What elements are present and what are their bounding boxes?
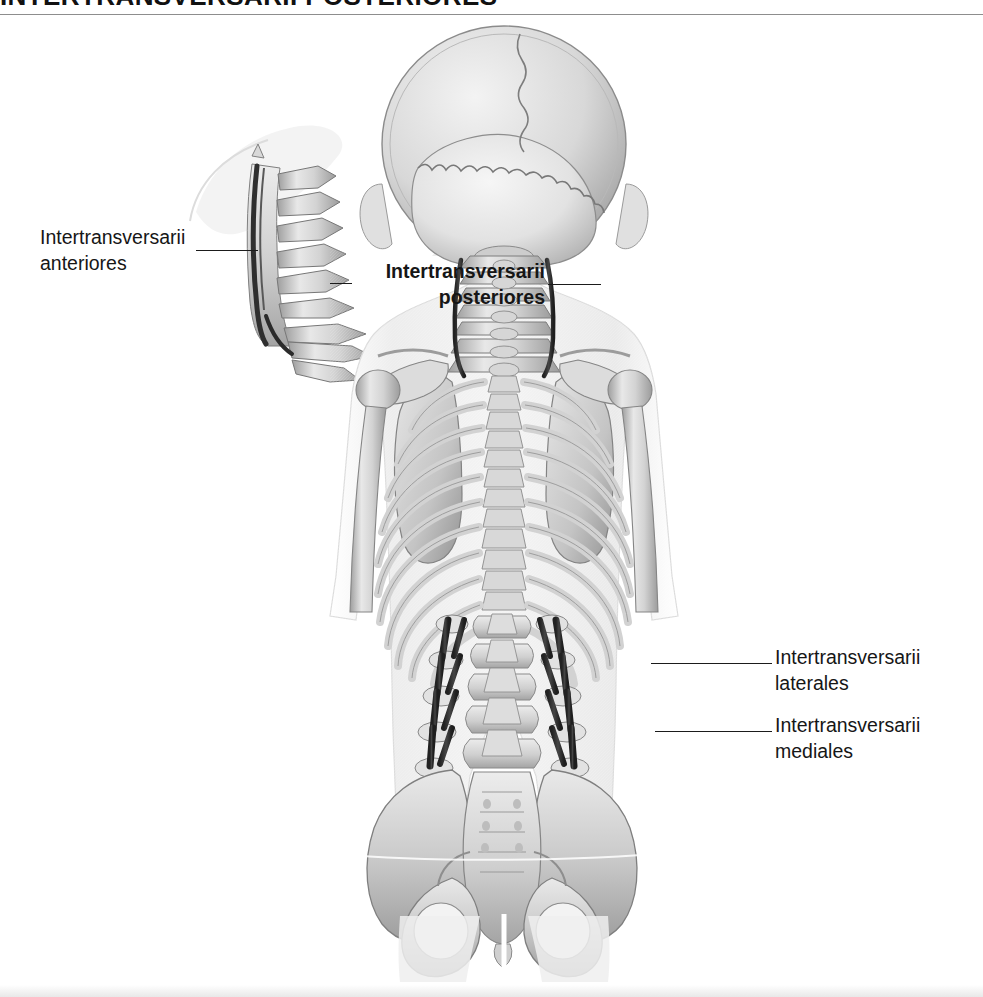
leader-line-anteriores <box>196 250 258 251</box>
label-line-2: posteriores <box>355 284 545 310</box>
leader-line-posteriores-left <box>330 283 352 284</box>
ear-right <box>616 184 648 249</box>
leader-line-posteriores-right <box>548 284 601 285</box>
label-intertransversarii-anteriores: Intertransversarii anteriores <box>40 224 185 276</box>
skull-posterior <box>360 26 648 270</box>
label-line-1: Intertransversarii <box>775 712 920 738</box>
page-title: INTERTRANSVERSARII POSTERIORES <box>0 0 983 12</box>
label-intertransversarii-laterales: Intertransversarii laterales <box>775 644 920 696</box>
label-line-2: mediales <box>775 738 920 764</box>
label-line-2: laterales <box>775 670 920 696</box>
leader-line-mediales <box>655 731 772 732</box>
anatomy-illustration <box>0 16 983 997</box>
label-line-1: Intertransversarii <box>775 644 920 670</box>
leader-line-laterales <box>651 663 772 664</box>
label-line-1: Intertransversarii <box>40 224 185 250</box>
label-line-2: anteriores <box>40 250 185 276</box>
figure-page: INTERTRANSVERSARII POSTERIORES <box>0 0 983 997</box>
label-line-1: Intertransversarii <box>355 258 545 284</box>
ear-left <box>360 184 392 249</box>
page-footer-band <box>0 985 983 997</box>
header-divider <box>0 14 983 15</box>
label-intertransversarii-posteriores: Intertransversarii posteriores <box>355 258 545 310</box>
label-intertransversarii-mediales: Intertransversarii mediales <box>775 712 920 764</box>
main-skeleton-figure <box>330 26 680 982</box>
